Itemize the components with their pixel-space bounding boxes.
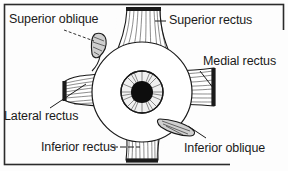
label-lateral-rectus: Lateral rectus bbox=[4, 110, 78, 123]
label-inferior-oblique: Inferior oblique bbox=[184, 142, 265, 155]
label-medial-rectus: Medial rectus bbox=[203, 55, 276, 68]
label-superior-rectus: Superior rectus bbox=[169, 14, 252, 27]
label-inferior-rectus: Inferior rectus bbox=[41, 141, 116, 154]
label-superior-oblique: Superior oblique bbox=[9, 13, 98, 26]
pupil bbox=[131, 81, 153, 103]
eye-muscle-diagram: Superior oblique Superior rectus Medial … bbox=[0, 0, 288, 171]
leader-superior-oblique bbox=[64, 30, 94, 41]
